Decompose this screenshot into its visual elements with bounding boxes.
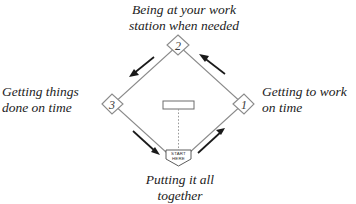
arrow-first-to-second [199,54,225,74]
base-marker-3: 3 [102,94,123,114]
home-plate-start-here: START HERE [166,150,191,166]
diagram-canvas: 2 1 3 START HERE [0,0,356,204]
base-marker-1: 1 [233,94,254,114]
label-putting-it-all-together: Putting it all together [112,172,248,203]
base-1-number: 1 [241,98,247,112]
base-2-number: 2 [175,39,181,53]
arrow-second-to-third [129,57,154,77]
label-being-at-work-station: Being at your work station when needed [96,2,272,33]
base-3-number: 3 [108,98,115,112]
pitchers-rubber [163,101,194,109]
start-here-line2: HERE [172,156,185,161]
label-getting-things-done-on-time: Getting things done on time [2,84,102,115]
label-getting-to-work-on-time: Getting to work on time [262,84,356,115]
